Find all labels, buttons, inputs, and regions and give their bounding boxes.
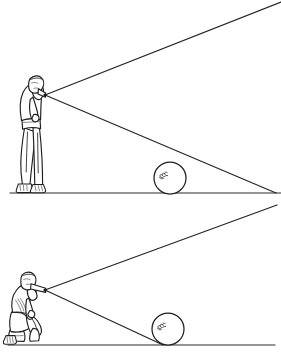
perspective-diagram-svg — [0, 0, 281, 356]
upper-observer-front-leg-crease — [38, 133, 39, 173]
upper-observer-eye-point — [43, 93, 46, 96]
diagram-canvas: Observer eye-level and line of sight to … — [0, 0, 281, 356]
lower-panel-ball — [152, 313, 184, 345]
lower-panel-ball-outline — [152, 313, 184, 345]
lower-observer-front-shin — [30, 328, 40, 341]
upper-panel-ball-outline — [154, 162, 186, 194]
lower-observer-eye-point — [43, 288, 46, 291]
lower-observer-hand — [28, 311, 35, 318]
upper-panel-ball — [154, 162, 186, 194]
upper-observer-hand — [32, 114, 39, 121]
